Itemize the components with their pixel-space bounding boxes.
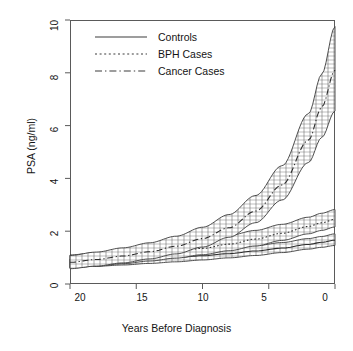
y-tick-label: 6 — [49, 120, 60, 140]
legend-line-dashdot-icon — [95, 66, 147, 76]
x-tick-label: 20 — [68, 292, 92, 303]
y-tick-label: 0 — [49, 276, 60, 296]
x-tick-label: 15 — [130, 292, 154, 303]
y-tick-label: 8 — [49, 68, 60, 88]
x-axis-title: Years Before Diagnosis — [0, 322, 353, 334]
legend-line-dotted-icon — [95, 49, 147, 59]
legend-label: BPH Cases — [158, 48, 212, 60]
legend-label: Controls — [158, 31, 197, 43]
y-axis-title: PSA (ng/ml) — [25, 101, 37, 191]
x-tick-label: 5 — [252, 292, 276, 303]
psa-chart-figure: 0 2 4 6 8 10 20 15 10 5 0 PSA (ng/ml) Ye… — [0, 0, 353, 351]
legend-item-bph-cases: BPH Cases — [95, 45, 225, 62]
legend-label: Cancer Cases — [158, 65, 225, 77]
legend-line-solid-icon — [95, 32, 147, 42]
y-tick-label: 2 — [49, 224, 60, 244]
legend-item-cancer-cases: Cancer Cases — [95, 62, 225, 79]
x-tick-label: 10 — [191, 292, 215, 303]
chart-legend: Controls BPH Cases Cancer Cases — [95, 28, 225, 79]
legend-item-controls: Controls — [95, 28, 225, 45]
y-tick-label: 4 — [49, 172, 60, 192]
x-tick-label: 0 — [313, 292, 337, 303]
y-tick-label: 10 — [49, 16, 60, 36]
